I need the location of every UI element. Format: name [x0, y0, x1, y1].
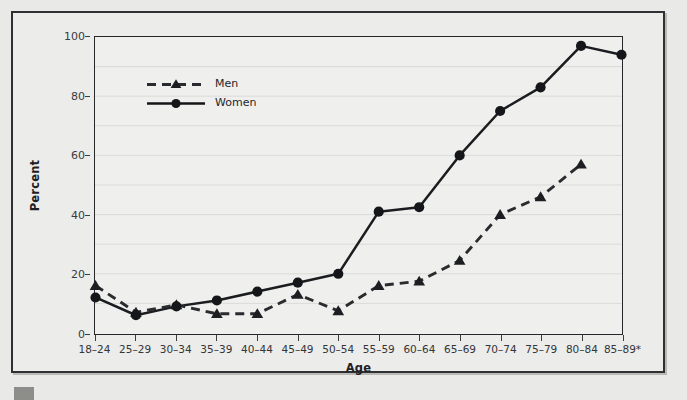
x-axis-tick: [298, 335, 299, 341]
legend-swatch-men-icon: [145, 75, 207, 94]
x-axis-labels: 18–2425–2930–3435–3940–4445–4950–5455–59…: [94, 343, 623, 359]
y-axis-tick-label: 80: [71, 89, 85, 102]
y-axis-labels: 020406080100: [53, 36, 85, 335]
x-axis-tick-label: 45–49: [282, 343, 314, 355]
data-point-women: [455, 150, 465, 160]
y-axis-tick-label: 100: [64, 30, 85, 43]
legend-entry-men: Men: [145, 75, 285, 94]
series-markers-men: [90, 159, 587, 318]
x-axis-tick-label: 85–89*: [604, 343, 641, 355]
data-point-women: [333, 269, 343, 279]
x-axis-tick: [419, 335, 420, 341]
data-point-women: [293, 278, 303, 288]
figure-frame: 020406080100 Percent 18–2425–2930–3435–3…: [11, 11, 665, 373]
y-axis-tick: [85, 274, 90, 275]
x-axis-tick: [338, 335, 339, 341]
corner-marker-tab: [14, 387, 34, 400]
x-axis-tick: [582, 335, 583, 341]
x-axis-tick-label: 65–69: [444, 343, 476, 355]
legend-entry-women: Women: [145, 94, 285, 113]
chart-legend: Men Women: [145, 75, 285, 113]
y-axis-tick: [85, 155, 90, 156]
x-axis-tick: [135, 335, 136, 341]
x-axis-tick: [379, 335, 380, 341]
x-axis-tick-label: 50–54: [322, 343, 354, 355]
x-axis-tick-label: 70–74: [485, 343, 517, 355]
x-axis-tick: [460, 335, 461, 341]
data-point-men: [454, 255, 466, 265]
x-axis-tick: [216, 335, 217, 341]
x-axis-tick-label: 60–64: [403, 343, 435, 355]
data-point-women: [252, 286, 262, 296]
y-axis-tick-label: 60: [71, 149, 85, 162]
data-point-women: [374, 207, 384, 217]
x-axis-tick-label: 18–24: [79, 343, 111, 355]
data-point-men: [575, 159, 587, 169]
data-point-women: [171, 301, 181, 311]
data-point-women: [576, 41, 586, 51]
x-axis-tick-label: 75–79: [525, 343, 557, 355]
y-axis-tick: [85, 96, 90, 97]
y-axis-tick: [85, 334, 90, 335]
data-point-men: [292, 289, 304, 299]
x-axis-tick-label: 80–84: [566, 343, 598, 355]
x-axis-tick: [176, 335, 177, 341]
x-axis-tick: [501, 335, 502, 341]
y-axis-tick: [85, 36, 90, 37]
series-line-men: [95, 164, 581, 313]
x-axis-tick-label: 55–59: [363, 343, 395, 355]
data-point-women: [131, 310, 141, 320]
legend-label-women: Women: [215, 96, 256, 109]
data-point-women: [212, 295, 222, 305]
x-axis-tick: [541, 335, 542, 341]
data-point-men: [373, 280, 385, 290]
x-axis-tick: [95, 335, 96, 341]
x-axis-tick-label: 40–44: [241, 343, 273, 355]
legend-label-men: Men: [215, 77, 238, 90]
x-axis-tick: [623, 335, 624, 341]
y-axis-tick: [85, 215, 90, 216]
data-point-women: [616, 50, 626, 60]
data-point-men: [494, 209, 506, 219]
legend-swatch-women-icon: [145, 94, 207, 113]
data-point-women: [90, 292, 100, 302]
x-axis-tick-label: 30–34: [160, 343, 192, 355]
y-axis-tick-label: 20: [71, 268, 85, 281]
data-point-women: [414, 202, 424, 212]
x-axis-tick: [257, 335, 258, 341]
x-axis-tickmarks: [94, 335, 623, 343]
data-point-women: [495, 106, 505, 116]
y-axis-title: Percent: [27, 36, 43, 335]
x-axis-tick-label: 35–39: [200, 343, 232, 355]
data-point-men: [535, 191, 547, 201]
y-axis-tick-label: 0: [78, 328, 85, 341]
y-axis-tick-label: 40: [71, 208, 85, 221]
x-axis-tick-label: 25–29: [119, 343, 151, 355]
x-axis-title: Age: [94, 361, 623, 375]
figure-background: 020406080100 Percent 18–2425–2930–3435–3…: [13, 13, 663, 371]
data-point-women: [535, 82, 545, 92]
